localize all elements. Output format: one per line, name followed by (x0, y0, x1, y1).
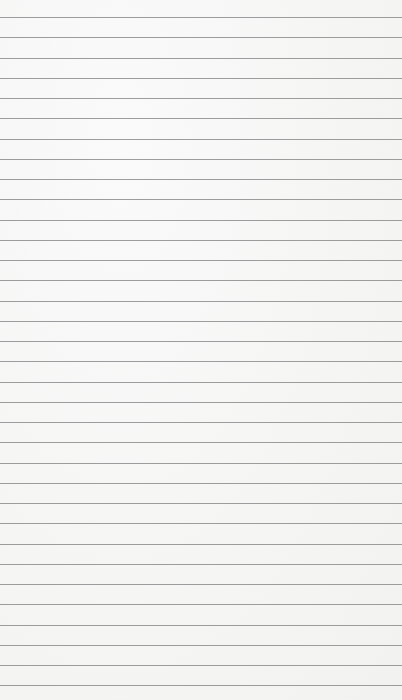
ruled-line (0, 179, 402, 180)
ruled-line (0, 463, 402, 464)
ruled-line (0, 544, 402, 545)
ruled-line (0, 483, 402, 484)
ruled-line (0, 625, 402, 626)
ruled-line (0, 159, 402, 160)
ruled-line (0, 240, 402, 241)
ruled-line (0, 98, 402, 99)
ruled-line (0, 665, 402, 666)
ruled-line (0, 645, 402, 646)
ruled-line (0, 604, 402, 605)
ruled-line (0, 37, 402, 38)
ruled-line (0, 685, 402, 686)
ruled-line (0, 280, 402, 281)
lined-paper (0, 0, 402, 700)
ruled-line (0, 139, 402, 140)
ruled-line (0, 422, 402, 423)
ruled-line (0, 382, 402, 383)
ruled-line (0, 564, 402, 565)
ruled-line (0, 361, 402, 362)
ruled-line (0, 220, 402, 221)
ruled-line (0, 118, 402, 119)
ruled-line (0, 503, 402, 504)
ruled-line (0, 260, 402, 261)
ruled-line (0, 17, 402, 18)
ruled-line (0, 402, 402, 403)
ruled-line (0, 341, 402, 342)
ruled-line (0, 78, 402, 79)
ruled-line (0, 58, 402, 59)
ruled-line (0, 301, 402, 302)
ruled-line (0, 321, 402, 322)
ruled-line (0, 199, 402, 200)
ruled-line (0, 523, 402, 524)
ruled-line (0, 442, 402, 443)
ruled-line (0, 584, 402, 585)
